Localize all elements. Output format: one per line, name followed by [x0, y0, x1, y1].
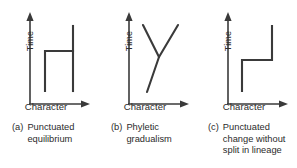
lineage-branches-c [242, 26, 272, 91]
caption-b: (b) Phyletic gradualism [99, 122, 198, 145]
y-axis-label-c: Time [223, 17, 233, 65]
caption-a: (a) Punctuated equilibrium [0, 122, 99, 145]
caption-text-c: Punctuated change without split in linea… [223, 122, 297, 157]
caption-text-b: Phyletic gradualism [126, 122, 198, 145]
x-axis-label-c: Character [198, 101, 290, 112]
lineage-branches-b [143, 25, 178, 92]
x-axis-label-b: Character [99, 101, 191, 112]
caption-text-a: Punctuated equilibrium [27, 122, 99, 145]
caption-tag-b: (b) [111, 122, 126, 134]
panel-c: Time Character (c) Punctuated change wit… [198, 0, 297, 168]
figure-evolutionary-modes: Time Character (a) Punctuated equilibriu… [0, 0, 297, 168]
panel-b: Time Character (b) Phyletic gradualism [99, 0, 198, 168]
x-axis-label-a: Character [0, 101, 92, 112]
caption-c: (c) Punctuated change without split in l… [198, 122, 297, 157]
y-axis-label-a: Time [25, 17, 35, 65]
caption-tag-a: (a) [12, 122, 27, 134]
panel-a: Time Character (a) Punctuated equilibriu… [0, 0, 99, 168]
lineage-branches-a [45, 26, 73, 91]
y-axis-label-b: Time [124, 17, 134, 65]
caption-tag-c: (c) [208, 122, 223, 134]
